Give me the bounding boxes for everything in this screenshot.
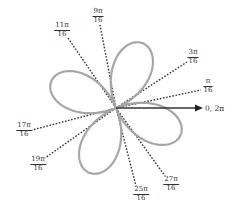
ray-label-pi-16: π16 [204, 78, 213, 94]
polar-rose-graph [0, 0, 233, 212]
axis-arrowhead-icon [195, 105, 203, 112]
ray-label-17pi-16: 17π16 [16, 122, 32, 138]
ray-label-27pi-16: 27π16 [163, 176, 179, 192]
ray-label-11pi-16: 11π16 [54, 22, 70, 38]
ray-label-19pi-16: 19π16 [30, 156, 46, 172]
ray-label-9pi-16: 9π16 [92, 8, 103, 24]
ray-27π-over-16 [116, 108, 165, 176]
ray-label-3pi-16: 3π16 [187, 49, 198, 65]
dotted-rays [32, 25, 201, 186]
ray-19π-over-16 [45, 108, 116, 158]
ray-label-25pi-16: 25π16 [133, 186, 149, 202]
axis-label: 0, 2π [205, 104, 224, 113]
polar-diagram: 0, 2π π16 3π16 9π16 11π16 17π16 19π16 25… [0, 0, 233, 212]
